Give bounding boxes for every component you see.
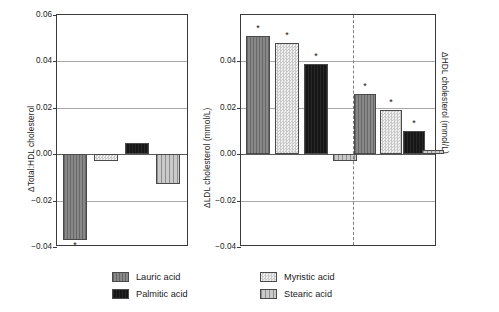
y-tick-mark xyxy=(53,61,57,62)
significance-marker: * xyxy=(285,31,289,40)
legend-item-label: Palmitic acid xyxy=(136,289,188,299)
left-panel-plot-area: * xyxy=(56,14,188,246)
y-tick-label: 0.00 xyxy=(220,149,236,158)
chart-panel-total-hdl: ΔTotal:HDL cholesterol 0.060.040.020.00−… xyxy=(18,14,190,262)
bar xyxy=(354,94,376,154)
bar xyxy=(304,64,328,154)
y-tick-label: 0.00 xyxy=(36,149,52,158)
figure-root: ΔTotal:HDL cholesterol 0.060.040.020.00−… xyxy=(0,0,499,312)
y-tick-mark xyxy=(237,61,241,62)
legend-item-label: Myristic acid xyxy=(284,272,335,282)
y-tick-label: 0.02 xyxy=(220,102,236,111)
bar xyxy=(246,36,270,154)
bar xyxy=(125,143,149,155)
significance-marker: * xyxy=(73,241,77,250)
y-tick-mark xyxy=(53,247,57,248)
gridline xyxy=(57,108,187,109)
legend-swatch-icon xyxy=(112,272,129,282)
significance-marker: * xyxy=(389,98,393,107)
legend-swatch-icon xyxy=(260,289,277,299)
right-panel-y-tick-labels: 0.040.020.00−0.02−0.04 xyxy=(208,14,236,262)
legend-swatch-icon xyxy=(112,289,129,299)
left-panel-y-tick-labels: 0.060.040.020.00−0.02−0.04 xyxy=(24,14,52,262)
significance-marker: * xyxy=(363,82,367,91)
legend-item-label: Stearic acid xyxy=(284,289,332,299)
legend-swatch-icon xyxy=(260,272,277,282)
y-tick-label: 0.02 xyxy=(36,102,52,111)
y-tick-label: −0.04 xyxy=(31,242,52,251)
bar xyxy=(275,43,299,154)
legend-item[interactable]: Lauric acid xyxy=(112,272,180,282)
y-tick-label: 0.04 xyxy=(36,56,52,65)
y-tick-label: −0.02 xyxy=(215,195,236,204)
chart-panel-ldl-hdl: ΔLDL cholesterol (mmol/L) ΔHDL cholester… xyxy=(196,14,448,262)
gridline xyxy=(241,201,435,202)
significance-marker: * xyxy=(256,24,260,33)
legend-item-label: Lauric acid xyxy=(136,272,180,282)
right-panel-plot-area: ****** xyxy=(240,14,436,246)
group-divider xyxy=(353,15,354,245)
chart-legend: Lauric acidMyristic acidPalmitic acidSte… xyxy=(112,272,402,306)
y-tick-mark xyxy=(53,15,57,16)
y-tick-mark xyxy=(237,247,241,248)
significance-marker: * xyxy=(314,52,318,61)
y-tick-label: −0.02 xyxy=(31,195,52,204)
significance-marker: * xyxy=(412,119,416,128)
y-tick-mark xyxy=(53,154,57,155)
y-tick-mark xyxy=(53,201,57,202)
y-tick-label: 0.04 xyxy=(220,56,236,65)
y-tick-mark xyxy=(237,154,241,155)
bar xyxy=(422,150,444,155)
y-tick-label: −0.04 xyxy=(215,242,236,251)
legend-item[interactable]: Palmitic acid xyxy=(112,289,188,299)
gridline xyxy=(241,108,435,109)
bar xyxy=(380,110,402,154)
y-tick-mark xyxy=(237,108,241,109)
bar xyxy=(94,154,118,161)
y-tick-mark xyxy=(53,108,57,109)
gridline xyxy=(241,61,435,62)
y-tick-mark xyxy=(237,201,241,202)
legend-item[interactable]: Myristic acid xyxy=(260,272,335,282)
legend-item[interactable]: Stearic acid xyxy=(260,289,332,299)
right-panel-y-axis-title-right: ΔHDL cholesterol (mmol/L) xyxy=(440,52,450,154)
bar xyxy=(63,154,87,240)
bar xyxy=(156,154,180,184)
gridline xyxy=(57,61,187,62)
y-tick-label: 0.06 xyxy=(36,10,52,19)
